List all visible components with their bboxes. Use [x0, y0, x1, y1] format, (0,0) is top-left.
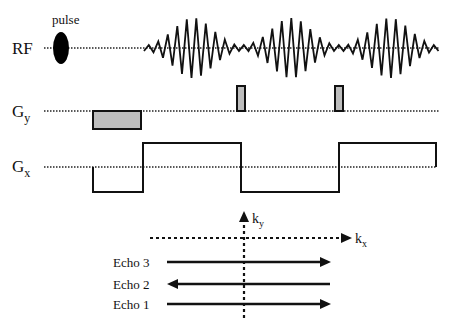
gy-label: Gy [12, 102, 30, 125]
echo3-arrowhead-icon [320, 257, 331, 267]
gx-label: Gx [12, 157, 30, 180]
echo3-label: Echo 3 [113, 255, 149, 270]
ky-arrowhead-icon [239, 211, 249, 222]
rf-label: RF [12, 39, 33, 58]
echo1-label: Echo 1 [113, 297, 149, 312]
echo2-label: Echo 2 [113, 277, 149, 292]
gy-blip-2 [335, 86, 343, 111]
ky-label: ky [252, 211, 264, 229]
gy-blip-1 [237, 86, 245, 111]
kx-arrowhead-icon [341, 233, 352, 243]
kx-label: kx [355, 231, 367, 249]
echo1-arrowhead-icon [320, 299, 331, 309]
gy-phase-prewinder [93, 111, 141, 129]
pulse-label: pulse [52, 12, 80, 27]
rf-pulse-ellipse [53, 32, 69, 64]
echo2-arrowhead-icon [167, 279, 178, 289]
epi-sequence-diagram: pulse RF Gy Gx ky kx Echo 3 Echo 2 Echo … [0, 0, 452, 331]
